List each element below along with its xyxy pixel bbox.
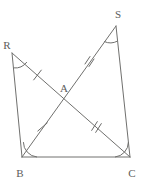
segment-R-C-diagonal xyxy=(12,53,130,157)
segment-B-S-diagonal xyxy=(22,26,116,157)
vertex-label-R: R xyxy=(3,39,11,51)
vertex-label-S: S xyxy=(115,8,121,20)
angle-arc-B xyxy=(23,142,37,157)
vertex-label-A: A xyxy=(60,82,68,94)
geometry-figure: R S B C A xyxy=(0,0,144,182)
segment-S-C xyxy=(116,26,130,157)
tick-mark-segment-B-A xyxy=(38,123,47,131)
geometry-canvas: R S B C A xyxy=(0,0,144,182)
tick-mark-1-segment-A-C xyxy=(92,122,98,131)
angle-arc-S xyxy=(104,41,117,43)
vertex-label-B: B xyxy=(16,167,23,179)
segment-R-B xyxy=(12,53,22,157)
vertex-label-C: C xyxy=(128,167,135,179)
